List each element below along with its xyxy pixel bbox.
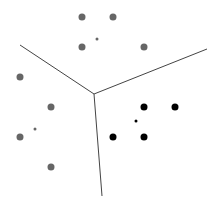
voronoi-cluster-diagram: [0, 0, 217, 206]
data-point: [48, 104, 55, 111]
cluster-right: [110, 104, 179, 141]
data-point: [79, 14, 86, 21]
centroid-marker: [96, 38, 99, 41]
boundary-line: [94, 94, 102, 196]
data-point: [110, 134, 117, 141]
data-point: [79, 44, 86, 51]
data-point: [141, 134, 148, 141]
boundary-line: [20, 45, 94, 94]
clusters: [17, 14, 179, 171]
data-point: [141, 44, 148, 51]
centroid-marker: [34, 128, 37, 131]
boundary-line: [94, 49, 207, 94]
data-point: [110, 14, 117, 21]
cluster-left: [17, 74, 55, 171]
cluster-boundaries: [20, 45, 207, 196]
cluster-top: [79, 14, 148, 51]
centroid-marker: [135, 120, 138, 123]
data-point: [17, 74, 24, 81]
data-point: [172, 104, 179, 111]
data-point: [141, 104, 148, 111]
data-point: [17, 134, 24, 141]
data-point: [48, 164, 55, 171]
